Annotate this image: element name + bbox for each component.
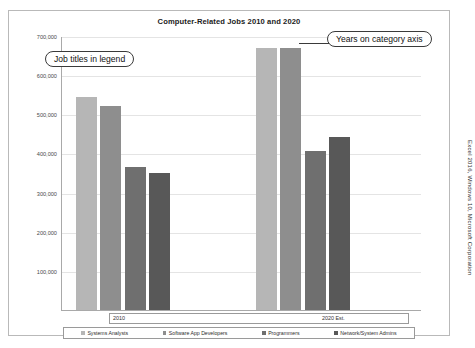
callout-job-titles: Job titles in legend xyxy=(45,51,134,67)
legend-swatch-icon xyxy=(334,331,338,335)
bar-systems-analysts-2020-est- xyxy=(256,48,277,310)
legend-item-network-system-admins[interactable]: Network/System Admins xyxy=(334,330,396,336)
y-axis-tick-label: 500,000 xyxy=(37,112,57,118)
plot-area: 700,000600,000500,000400,000300,000200,0… xyxy=(61,37,421,311)
category-label-2020-est-: 2020 Est. xyxy=(322,315,345,321)
bar-network-system-admins-2010 xyxy=(149,173,170,310)
legend-item-systems-analysts[interactable]: Systems Analysts xyxy=(81,330,128,336)
gridline xyxy=(61,76,421,77)
y-axis-tick-label: 600,000 xyxy=(37,73,57,79)
category-label-2010: 2010 xyxy=(113,315,125,321)
bar-software-app-developers-2010 xyxy=(100,106,121,310)
y-axis-line xyxy=(61,37,62,311)
legend-label: Systems Analysts xyxy=(87,330,128,336)
y-axis-tick-label: 700,000 xyxy=(37,34,57,40)
y-axis-tick-label: 400,000 xyxy=(37,151,57,157)
bar-programmers-2020-est- xyxy=(305,151,326,310)
bar-software-app-developers-2020-est- xyxy=(280,48,301,310)
chart-frame: Computer-Related Jobs 2010 and 2020 700,… xyxy=(8,10,450,336)
legend-item-software-app-developers[interactable]: Software App Developers xyxy=(163,330,228,336)
y-axis-tick-label: 100,000 xyxy=(37,269,57,275)
y-axis-tick-label: 300,000 xyxy=(37,191,57,197)
callout-years-axis: Years on category axis xyxy=(327,31,432,47)
legend-label: Software App Developers xyxy=(169,330,228,336)
bar-programmers-2010 xyxy=(125,167,146,310)
chart-title: Computer-Related Jobs 2010 and 2020 xyxy=(9,17,449,26)
category-axis: 20102020 Est. xyxy=(109,313,409,324)
bar-network-system-admins-2020-est- xyxy=(329,137,350,310)
legend-item-programmers[interactable]: Programmers xyxy=(262,330,299,336)
legend-swatch-icon xyxy=(262,331,266,335)
x-axis-line xyxy=(61,310,421,311)
bar-systems-analysts-2010 xyxy=(76,97,97,310)
chart-legend: Systems AnalystsSoftware App DevelopersP… xyxy=(63,327,415,339)
callout-leader-years xyxy=(299,43,331,44)
legend-label: Network/System Admins xyxy=(340,330,396,336)
y-axis-tick-label: 200,000 xyxy=(37,230,57,236)
legend-swatch-icon xyxy=(81,331,85,335)
legend-label: Programmers xyxy=(268,330,299,336)
legend-swatch-icon xyxy=(163,331,167,335)
attribution-text: Excel 2016, Windows 10, Microsoft Corpor… xyxy=(467,140,473,275)
